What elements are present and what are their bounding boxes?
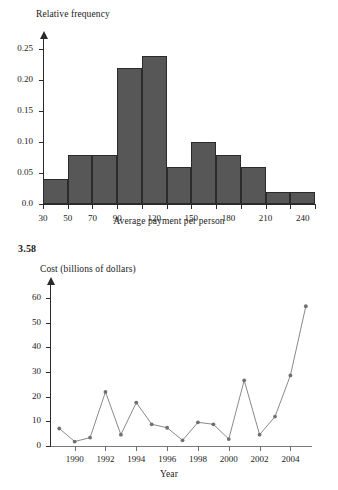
- histogram-bar: [68, 155, 93, 204]
- line-chart-data-point: [304, 304, 308, 308]
- histogram-y-tick: 0.20: [39, 80, 44, 81]
- line-chart-data-point: [119, 433, 123, 437]
- histogram-x-tick: [68, 204, 69, 209]
- histogram-y-tick: 0.05: [39, 173, 44, 174]
- line-chart-x-tick-label: 1994: [127, 454, 145, 464]
- histogram-x-tick: [266, 204, 267, 209]
- line-chart-x-tick-label: 2004: [281, 454, 299, 464]
- line-chart-series: [50, 284, 312, 447]
- histogram-bar: [43, 179, 68, 204]
- histogram-bar: [92, 155, 117, 204]
- histogram-x-axis-title: Average payment per person: [0, 216, 338, 226]
- line-chart-data-point: [289, 373, 293, 377]
- line-chart-x-tick-label: 2000: [220, 454, 238, 464]
- line-chart-data-point: [227, 437, 231, 441]
- histogram-x-tick: [290, 204, 291, 209]
- histogram-y-tick: 0.25: [39, 49, 44, 50]
- histogram-x-tick: [167, 204, 168, 209]
- line-chart-figure: Cost (billions of dollars) 0102030405060…: [0, 262, 338, 490]
- histogram-y-axis-title: Relative frequency: [36, 9, 110, 19]
- line-chart-x-tick-label: 1996: [158, 454, 176, 464]
- line-chart-data-point: [73, 440, 77, 444]
- histogram-x-tick: [92, 204, 93, 209]
- histogram-y-tick: 0.10: [39, 142, 44, 143]
- line-chart-plot-area: 0102030405060 19901992199419961998200020…: [50, 284, 312, 447]
- line-chart-data-point: [165, 426, 169, 430]
- line-chart-path: [59, 306, 306, 441]
- histogram-x-tick: [142, 204, 143, 209]
- line-chart-data-point: [211, 422, 215, 426]
- line-chart-x-tick-label: 1992: [96, 454, 114, 464]
- line-chart-data-point: [258, 433, 262, 437]
- histogram-y-tick-label: 0.25: [17, 43, 33, 53]
- histogram-bar: [241, 167, 266, 204]
- histogram-bar: [167, 167, 192, 204]
- line-chart-y-tick-label: 50: [32, 317, 41, 327]
- histogram-bar: [266, 192, 291, 204]
- histogram-y-tick-label: 0.15: [17, 105, 33, 115]
- histogram-y-tick: 0.15: [39, 111, 44, 112]
- problem-number: 3.58: [18, 243, 36, 254]
- histogram-x-tick: [241, 204, 242, 209]
- histogram-y-tick-label: 0.05: [17, 167, 33, 177]
- histogram-bar: [142, 56, 167, 204]
- line-chart-data-point: [150, 422, 154, 426]
- histogram-x-axis-line: [43, 204, 315, 205]
- histogram-bar: [117, 68, 142, 204]
- line-chart-x-tick-label: 1990: [66, 454, 84, 464]
- histogram-bar: [290, 192, 315, 204]
- line-chart-y-tick-label: 60: [32, 292, 41, 302]
- histogram-y-tick-label: 0.0: [22, 198, 33, 208]
- histogram-y-tick-label: 0.10: [17, 136, 33, 146]
- line-chart-data-point: [134, 401, 138, 405]
- line-chart-data-point: [196, 420, 200, 424]
- line-chart-x-axis-title: Year: [0, 469, 338, 479]
- line-chart-data-point: [242, 378, 246, 382]
- histogram-bar: [191, 142, 216, 204]
- histogram-x-tick: [43, 204, 44, 209]
- line-chart-data-point: [273, 415, 277, 419]
- line-chart-data-point: [104, 390, 108, 394]
- line-chart-y-tick-label: 10: [32, 415, 41, 425]
- histogram-y-axis-arrow-icon: [40, 31, 48, 39]
- histogram-x-tick: [216, 204, 217, 209]
- histogram-x-tick: [315, 204, 316, 209]
- histogram-x-tick: [117, 204, 118, 209]
- line-chart-y-axis-title: Cost (billions of dollars): [40, 264, 136, 274]
- line-chart-data-point: [88, 436, 92, 440]
- line-chart-data-point: [181, 438, 185, 442]
- line-chart-y-tick-label: 20: [32, 391, 41, 401]
- histogram-bar: [216, 155, 241, 204]
- line-chart-data-point: [57, 427, 61, 431]
- line-chart-y-tick-label: 0: [37, 440, 42, 450]
- histogram-y-tick-label: 0.20: [17, 74, 33, 84]
- line-chart-x-tick-label: 2002: [251, 454, 269, 464]
- histogram-figure: Relative frequency 0.00.050.100.150.200.…: [0, 0, 338, 235]
- line-chart-y-tick-label: 30: [32, 366, 41, 376]
- line-chart-y-tick-label: 40: [32, 341, 41, 351]
- histogram-plot-area: 0.00.050.100.150.200.25 3050709012015018…: [43, 38, 315, 205]
- line-chart-x-tick-label: 1998: [189, 454, 207, 464]
- histogram-x-tick: [191, 204, 192, 209]
